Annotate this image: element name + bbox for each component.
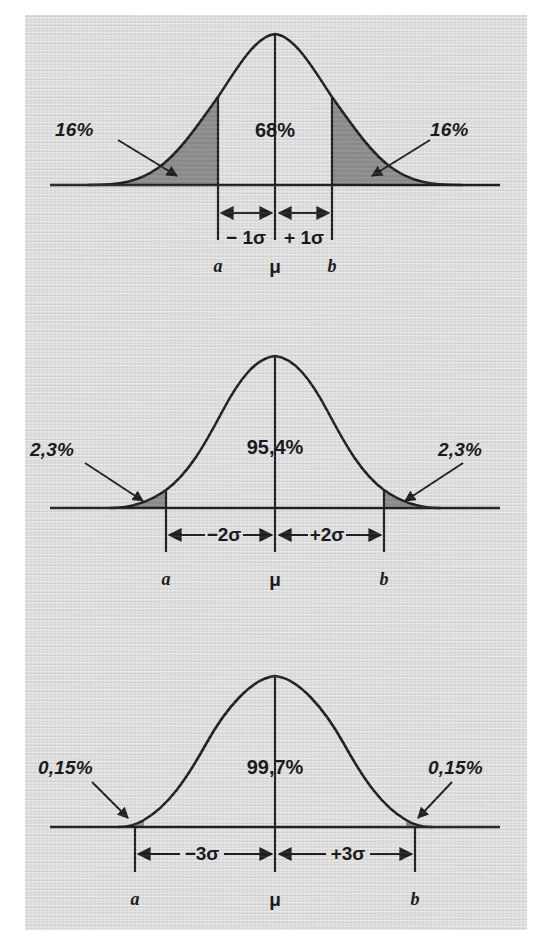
chart-1-left-tail-label: 16%	[55, 120, 94, 139]
chart-3-left-tail-label: 0,15%	[38, 758, 93, 777]
chart-3-axis-label-mu: μ	[269, 890, 281, 909]
chart-2-axis-label-mu: μ	[269, 570, 281, 589]
chart-1-axis-label-b: b	[328, 257, 337, 275]
chart-2-left-tail-label: 2,3%	[30, 440, 74, 459]
chart-1-axis-label-a: a	[214, 257, 223, 275]
chart-3-left-span-label: −3σ	[185, 844, 220, 863]
chart-2-left-span-label: −2σ	[207, 525, 242, 544]
paper-background	[25, 15, 527, 930]
chart-1-right-tail-label: 16%	[430, 120, 469, 139]
normal-distribution-figure: 16% 16% 68% − 1σ + 1σ a μ b 2,3% 2,3% 95…	[0, 0, 550, 948]
chart-1-right-span-label: + 1σ	[284, 228, 324, 247]
chart-2-axis-label-b: b	[380, 570, 389, 588]
chart-3-center-label: 99,7%	[247, 757, 304, 777]
chart-2-right-span-label: +2σ	[310, 525, 345, 544]
chart-3-axis-label-b: b	[411, 890, 420, 908]
chart-3-right-span-label: +3σ	[331, 844, 366, 863]
chart-1-axis-label-mu: μ	[269, 257, 281, 276]
chart-2-axis-label-a: a	[162, 570, 171, 588]
chart-1-center-label: 68%	[255, 120, 295, 140]
chart-3-right-tail-label: 0,15%	[428, 758, 483, 777]
chart-2-right-tail-label: 2,3%	[438, 440, 482, 459]
chart-1-left-span-label: − 1σ	[226, 228, 266, 247]
chart-2-center-label: 95,4%	[247, 437, 304, 457]
chart-3-axis-label-a: a	[131, 890, 140, 908]
